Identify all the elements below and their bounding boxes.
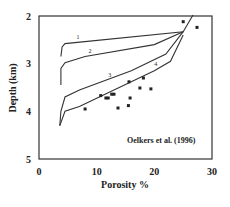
- y-axis-label: Depth (km): [7, 63, 19, 112]
- data-point: [127, 104, 130, 107]
- y-tick-label: 2: [26, 11, 31, 22]
- data-point: [128, 80, 131, 83]
- data-point: [129, 97, 132, 100]
- curve-label: 3: [108, 72, 111, 78]
- data-point: [84, 108, 87, 111]
- data-point: [182, 20, 185, 23]
- y-axis-ticks: 2345: [26, 11, 31, 165]
- x-axis-label: Porosity %: [101, 179, 149, 190]
- data-point: [149, 87, 152, 90]
- citation-annotation: Oelkers et al. (1996): [127, 136, 196, 145]
- data-point: [196, 26, 199, 29]
- model-curves: [60, 15, 193, 126]
- data-point: [138, 87, 141, 90]
- curve-label: 1: [77, 34, 80, 40]
- data-point: [113, 93, 116, 96]
- porosity-depth-chart: 1234 0102030 2345 Porosity % Depth (km) …: [0, 0, 230, 207]
- y-tick-label: 4: [26, 106, 31, 117]
- x-axis-ticks: 0102030: [37, 166, 218, 177]
- data-point: [142, 77, 145, 80]
- y-tick-label: 5: [26, 154, 31, 165]
- x-tick-label: 0: [37, 166, 42, 177]
- data-point: [99, 94, 102, 97]
- y-tick-label: 3: [26, 58, 31, 69]
- data-point: [107, 97, 110, 100]
- x-tick-label: 30: [207, 166, 217, 177]
- curve-label: 2: [89, 48, 92, 54]
- curve-label: 4: [154, 61, 157, 67]
- x-tick-label: 20: [149, 166, 159, 177]
- x-tick-label: 10: [92, 166, 102, 177]
- data-point: [117, 107, 120, 110]
- curve-4: [60, 35, 183, 126]
- curve-3: [60, 32, 183, 126]
